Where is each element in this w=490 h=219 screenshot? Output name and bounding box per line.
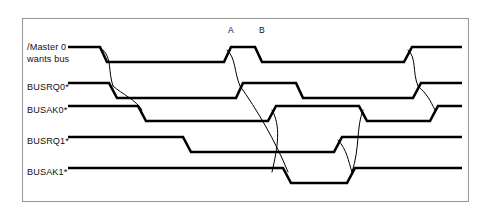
signal-label-master0-line2: wants bus [26,54,70,64]
timing-diagram-figure: /Master 0 wants bus BUSRQ0* BUSAK0* BUSR… [0,0,490,219]
signal-label-busrq0: BUSRQ0* [27,82,69,92]
timing-diagram-canvas: /Master 0 wants bus BUSRQ0* BUSAK0* BUSR… [0,0,490,219]
signal-label-busak0: BUSAK0* [27,105,68,115]
signal-label-busak1: BUSAK1* [27,167,68,177]
marker-label-a: A [228,25,234,35]
signal-label-master0-line1: /Master 0 [27,42,66,52]
marker-label-b: B [259,25,265,35]
signal-label-busrq1: BUSRQ1* [27,136,69,146]
